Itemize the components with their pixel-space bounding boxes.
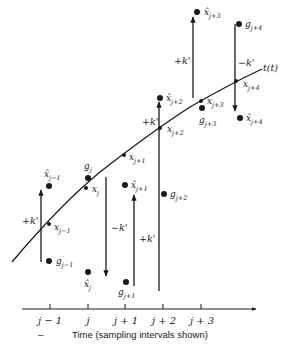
true-point-label: xj+1: [129, 152, 146, 165]
estimate-marker: [85, 269, 91, 275]
correction-label: −k': [238, 57, 254, 68]
measurement-label: gj: [84, 161, 92, 174]
correction-arrows: +k' −k' +k' +k' +k' −k': [22, 17, 254, 291]
measurement-marker: [46, 258, 52, 264]
estimates: x̂j−1 x̂j x̂j+1 x̂j+2 x̂j+3 x̂j+4: [44, 7, 263, 292]
measurement-marker: [161, 191, 167, 197]
estimate-label: x̂j: [84, 279, 91, 292]
curve-label: t(t): [263, 62, 278, 73]
true-point-marker: [47, 222, 51, 226]
estimate-marker: [157, 95, 163, 101]
estimate-marker: [122, 182, 128, 188]
true-point-marker: [122, 153, 126, 157]
true-point-marker: [234, 79, 238, 83]
true-point-label: xj+4: [243, 79, 260, 92]
tick-label: j − 1: [36, 315, 62, 326]
measurement-marker: [85, 175, 91, 181]
measurement-marker: [199, 105, 205, 111]
true-point-label: xj+3: [207, 96, 224, 109]
correction-label: +k': [142, 116, 158, 127]
measurement-label: gj−1: [56, 256, 73, 269]
estimate-marker: [237, 115, 243, 121]
tracking-filter-diagram: j − 1 j j + 1 j + 2 j + 3 – Time (sampli…: [0, 0, 293, 347]
measurement-label: gj+1: [118, 287, 135, 300]
axis-title: Time (sampling intervals shown): [72, 329, 208, 340]
correction-label: −k': [111, 222, 127, 233]
measurements: gj−1 gj gj+1 gj+2 gj+3 gj+4: [46, 19, 262, 300]
correction-label: +k': [139, 233, 155, 244]
true-point-marker: [158, 126, 162, 130]
correction-label: +k': [174, 55, 190, 66]
trajectory-curve: [12, 69, 262, 262]
tick-label: j: [84, 315, 89, 326]
axis-dash: –: [38, 329, 44, 340]
tick-label: j + 2: [150, 315, 176, 326]
true-point-marker: [199, 99, 203, 103]
estimate-label: x̂j+2: [166, 93, 183, 106]
estimate-label: x̂j+4: [246, 113, 263, 126]
true-point-label: xj−1: [54, 222, 71, 235]
tick-label: j + 3: [188, 315, 214, 326]
true-points: xj−1 xj xj+1 xj+2 xj+3 xj+4: [47, 79, 260, 235]
correction-label: +k': [22, 215, 38, 226]
true-point-label: xj: [92, 184, 99, 197]
measurement-label: gj+3: [199, 115, 216, 128]
measurement-marker: [236, 21, 242, 27]
measurement-label: gj+2: [170, 189, 187, 202]
estimate-label: x̂j+1: [131, 180, 148, 193]
tick-label: j + 1: [112, 315, 138, 326]
estimate-marker: [194, 9, 200, 15]
true-point-marker: [84, 186, 88, 190]
estimate-label: x̂j−1: [44, 169, 61, 182]
true-point-label: xj+2: [167, 124, 184, 137]
estimate-marker: [46, 183, 52, 189]
measurement-marker: [123, 279, 129, 285]
measurement-label: gj+4: [245, 19, 262, 32]
time-axis: j − 1 j j + 1 j + 2 j + 3 – Time (sampli…: [22, 304, 256, 340]
estimate-label: x̂j+3: [204, 7, 221, 20]
